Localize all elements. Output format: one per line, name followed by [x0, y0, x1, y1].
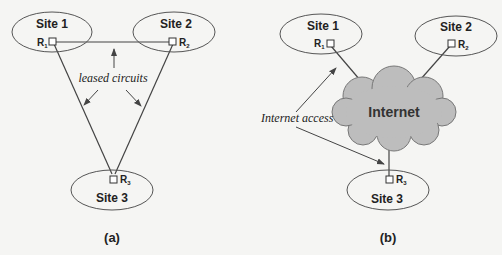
site-2-label: Site 2 [160, 17, 192, 31]
site-2-label: Site 2 [440, 20, 472, 34]
site-1-label: Site 1 [307, 19, 339, 33]
router-icon [49, 38, 56, 45]
router-icon [169, 38, 176, 45]
router-icon [110, 176, 117, 183]
access-line-2 [420, 46, 450, 80]
router-r1-label: R1 [314, 38, 325, 50]
router-icon [448, 40, 455, 47]
arrow-to-site1 [296, 68, 336, 112]
access-line-1 [331, 46, 360, 80]
router-r2-label: R2 [179, 37, 190, 49]
caption-b: (b) [380, 230, 397, 245]
router-icon [327, 40, 334, 47]
router-icon [386, 176, 393, 183]
router-r3-label: R3 [120, 174, 131, 186]
diagram-canvas: Site 1 R1 Site 2 R2 R3 Site 3 leased cir… [0, 0, 502, 255]
panel-b: Internet Site 1 R1 Site 2 R2 R3 Site 3 I… [260, 14, 497, 245]
arrow-right [126, 90, 141, 106]
caption-a: (a) [104, 230, 120, 245]
leased-circuits-annotation: leased circuits [78, 71, 148, 85]
arrow-left [84, 90, 98, 105]
leased-circuit-1-3 [54, 44, 112, 174]
site-3-label: Site 3 [96, 191, 128, 205]
site-3-label: Site 3 [371, 192, 403, 206]
site-1-label: Site 1 [36, 17, 68, 31]
leased-circuit-2-3 [115, 44, 173, 174]
router-r2-label: R2 [458, 39, 469, 51]
internet-cloud-label: Internet [368, 104, 420, 120]
router-r3-label: R3 [396, 174, 407, 186]
internet-access-annotation: Internet access [260, 111, 334, 125]
panel-a: Site 1 R1 Site 2 R2 R3 Site 3 leased cir… [12, 12, 215, 245]
router-r1-label: R1 [37, 37, 48, 49]
